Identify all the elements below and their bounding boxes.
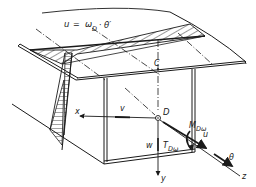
label-z: z — [241, 172, 247, 181]
formula-u: u — [64, 19, 69, 29]
label-x: x — [74, 107, 80, 116]
beam-warping-diagram: u = ω D · θ′ C D x v y — [0, 0, 256, 187]
label-c: C — [154, 59, 160, 68]
point-c: C — [154, 59, 160, 70]
label-t-d-omega: T Dω — [163, 141, 179, 153]
diagram-canvas: u = ω D · θ′ C D x v y — [0, 0, 256, 187]
warping-formula: u = ω D · θ′ — [64, 19, 111, 33]
svg-text:Dω: Dω — [168, 145, 179, 153]
label-d: D — [163, 107, 170, 117]
label-theta: θ — [229, 153, 234, 162]
label-v: v — [120, 104, 125, 113]
svg-text:Dω: Dω — [196, 125, 207, 133]
formula-dot: · — [99, 21, 102, 30]
x-axis: x v — [74, 104, 156, 118]
svg-text:M: M — [189, 121, 196, 130]
y-axis: y w — [146, 121, 166, 183]
label-y: y — [160, 174, 166, 183]
formula-omega-sub: D — [92, 25, 97, 33]
formula-theta: θ′ — [104, 20, 111, 30]
formula-eq: = — [73, 20, 80, 29]
label-w: w — [146, 141, 153, 150]
